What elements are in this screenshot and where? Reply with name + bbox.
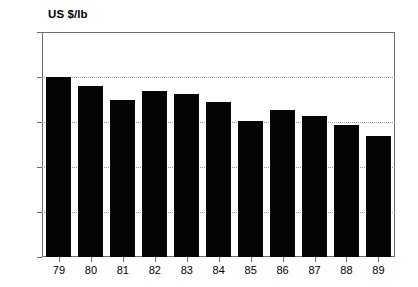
bar-89 <box>366 136 391 257</box>
bar-87 <box>302 116 327 257</box>
x-tick-label-81: 81 <box>117 264 129 276</box>
x-tick-mark-81 <box>123 257 124 262</box>
bar-85 <box>238 121 263 257</box>
bar-81 <box>110 100 135 257</box>
x-tick-mark-85 <box>251 257 252 262</box>
x-tick-label-85: 85 <box>245 264 257 276</box>
x-tick-label-89: 89 <box>372 264 384 276</box>
x-tick-mark-83 <box>187 257 188 262</box>
bar-86 <box>270 110 295 257</box>
x-tick-mark-88 <box>346 257 347 262</box>
x-tick-mark-89 <box>378 257 379 262</box>
x-tick-label-83: 83 <box>181 264 193 276</box>
x-tick-mark-87 <box>315 257 316 262</box>
x-tick-label-80: 80 <box>85 264 97 276</box>
x-tick-label-84: 84 <box>213 264 225 276</box>
x-tick-label-82: 82 <box>149 264 161 276</box>
x-tick-label-79: 79 <box>53 264 65 276</box>
bar-84 <box>206 102 231 257</box>
x-tick-mark-84 <box>219 257 220 262</box>
x-tick-label-87: 87 <box>308 264 320 276</box>
y-axis-unit-label: US $/lb <box>48 8 88 20</box>
bar-82 <box>142 91 167 257</box>
bar-88 <box>334 125 359 257</box>
x-tick-mark-80 <box>91 257 92 262</box>
bar-83 <box>174 94 199 257</box>
x-tick-mark-86 <box>283 257 284 262</box>
x-tick-label-86: 86 <box>276 264 288 276</box>
x-tick-mark-79 <box>59 257 60 262</box>
x-tick-label-88: 88 <box>340 264 352 276</box>
bar-chart-figure: US $/lb 012345 7980818283848586878889 <box>0 0 418 287</box>
bar-80 <box>78 86 103 257</box>
bar-79 <box>46 77 71 257</box>
bars-group <box>42 32 395 257</box>
x-tick-mark-82 <box>155 257 156 262</box>
y-tick-mark <box>37 257 42 258</box>
